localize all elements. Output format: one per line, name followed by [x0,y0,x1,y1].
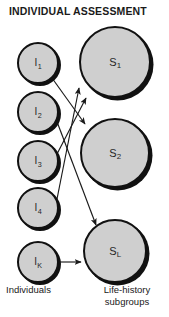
diagram-canvas: INDIVIDUAL ASSESSMENT I1I2I3I4IK S1S2SL … [0,0,169,317]
node-individual-label-i3: I3 [35,156,42,166]
node-individual-i2[interactable]: I2 [17,91,59,133]
caption-subgroups-line2: subgroups [85,296,169,308]
node-subgroup-label-sl: SL [109,246,121,257]
node-individual-i3[interactable]: I3 [17,140,59,182]
node-subgroup-s1[interactable]: S1 [79,26,151,98]
node-individual-i4[interactable]: I4 [17,187,59,229]
node-subgroup-label-s2: S2 [109,148,121,159]
node-individual-ik[interactable]: IK [17,241,59,283]
node-individual-label-i2: I2 [35,107,42,117]
node-subgroup-label-s1: S1 [109,57,121,68]
node-subgroup-sl[interactable]: SL [83,219,147,283]
node-individual-label-i4: I4 [35,203,42,213]
caption-subgroups: Life-history subgroups [85,284,169,307]
page-title: INDIVIDUAL ASSESSMENT [9,5,147,17]
edge-i4-to-s1 [57,88,79,199]
node-individual-i1[interactable]: I1 [17,42,59,84]
node-subgroup-s2[interactable]: S2 [80,118,150,188]
caption-individuals: Individuals [6,284,51,296]
node-individual-label-ik: IK [34,257,42,267]
caption-subgroups-line1: Life-history [85,284,169,296]
node-individual-label-i1: I1 [35,58,42,68]
